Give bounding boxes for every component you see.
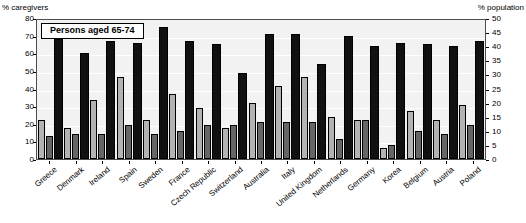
left-tick-label: 30 [8, 103, 34, 111]
right-tick-label: 30 [492, 71, 518, 79]
x-axis-label: Austria [431, 165, 456, 188]
chart-root: % caregivers % population Persons aged 6… [0, 0, 526, 223]
left-axis-caption: % caregivers [2, 3, 48, 12]
bar-mid-grey [98, 134, 105, 159]
right-tick-mark [486, 19, 489, 20]
bar-black [265, 34, 274, 159]
right-tick-label: 5 [492, 142, 518, 150]
bar-black [475, 41, 484, 159]
bar-mid-grey [125, 125, 132, 159]
x-tick-mark [235, 161, 236, 164]
bar-black [317, 64, 326, 159]
x-axis-label: Italy [280, 165, 297, 181]
left-tick-label: 60 [8, 50, 34, 58]
left-tick-mark [33, 54, 36, 55]
bar-light-grey [407, 111, 414, 159]
right-tick-label: 0 [492, 156, 518, 164]
right-tick-mark [486, 160, 489, 161]
bar-groups [37, 20, 485, 159]
x-tick-mark [287, 161, 288, 164]
bar-group [301, 20, 327, 159]
bar-mid-grey [362, 120, 369, 159]
bar-light-grey [169, 94, 176, 159]
left-tick-mark [33, 160, 36, 161]
bar-group [195, 20, 221, 159]
right-tick-label: 10 [492, 128, 518, 136]
bar-mid-grey [467, 125, 474, 159]
bar-black [159, 27, 168, 159]
bar-light-grey [90, 100, 97, 159]
bar-light-grey [301, 77, 308, 159]
bar-group [142, 20, 168, 159]
bar-group [274, 20, 300, 159]
bar-mid-grey [415, 131, 422, 159]
left-tick-label: 80 [8, 15, 34, 23]
bar-light-grey [459, 105, 466, 159]
x-tick-mark [49, 161, 50, 164]
bar-group [380, 20, 406, 159]
bar-black [133, 43, 142, 159]
bar-black [106, 41, 115, 159]
right-tick-label: 15 [492, 114, 518, 122]
bar-mid-grey [46, 136, 53, 159]
left-tick-label: 50 [8, 68, 34, 76]
right-tick-label: 20 [492, 100, 518, 108]
left-tick-mark [33, 37, 36, 38]
bar-mid-grey [204, 125, 211, 159]
x-tick-mark [473, 161, 474, 164]
right-tick-mark [486, 75, 489, 76]
bar-black [54, 39, 63, 159]
bar-light-grey [380, 148, 387, 159]
bar-light-grey [433, 120, 440, 159]
bar-group [459, 20, 485, 159]
x-tick-mark [393, 161, 394, 164]
bar-black [291, 34, 300, 159]
left-tick-mark [33, 107, 36, 108]
bar-black [370, 46, 379, 159]
bar-group [63, 20, 89, 159]
x-axis-label: Denmark [55, 165, 86, 193]
bar-light-grey [222, 128, 229, 159]
bar-black [449, 46, 458, 159]
bar-black [344, 36, 353, 159]
bar-light-grey [196, 108, 203, 159]
right-axis-caption: % population [478, 3, 524, 12]
bar-group [37, 20, 63, 159]
bar-group [116, 20, 142, 159]
bar-black [396, 43, 405, 159]
x-axis-labels: GreeceDenmarkIrelandSpainSwedenFranceCze… [36, 161, 486, 223]
x-axis-label: Spain [117, 165, 138, 185]
bar-light-grey [64, 128, 71, 159]
bar-mid-grey [230, 125, 237, 159]
right-tick-mark [486, 90, 489, 91]
bar-group [353, 20, 379, 159]
x-tick-mark [261, 161, 262, 164]
x-tick-mark [155, 161, 156, 164]
left-tick-label: 20 [8, 121, 34, 129]
right-tick-mark [486, 146, 489, 147]
left-tick-label: 40 [8, 86, 34, 94]
bar-light-grey [249, 103, 256, 159]
bar-group [432, 20, 458, 159]
bar-group [222, 20, 248, 159]
left-tick-mark [33, 125, 36, 126]
x-axis-label: Germany [346, 165, 377, 193]
bar-mid-grey [177, 131, 184, 159]
left-tick-label: 0 [8, 156, 34, 164]
right-tick-mark [486, 47, 489, 48]
bar-mid-grey [257, 122, 264, 159]
bar-group [406, 20, 432, 159]
x-tick-mark [420, 161, 421, 164]
right-tick-mark [486, 33, 489, 34]
left-tick-label: 10 [8, 138, 34, 146]
bar-group [90, 20, 116, 159]
x-tick-mark [76, 161, 77, 164]
right-tick-mark [486, 118, 489, 119]
bar-black [238, 73, 247, 159]
bar-mid-grey [336, 139, 343, 159]
right-tick-label: 40 [492, 43, 518, 51]
bar-black [80, 53, 89, 159]
x-tick-mark [367, 161, 368, 164]
x-tick-mark [129, 161, 130, 164]
chart-title-box: Persons aged 65-74 [41, 23, 144, 39]
